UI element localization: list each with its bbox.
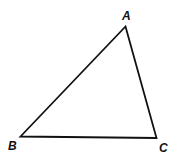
triangle-abc [21,27,157,139]
vertex-label-b: B [8,139,17,153]
vertex-label-a: A [121,9,131,23]
triangle-diagram: A B C [0,0,170,159]
vertex-label-c: C [159,141,168,155]
